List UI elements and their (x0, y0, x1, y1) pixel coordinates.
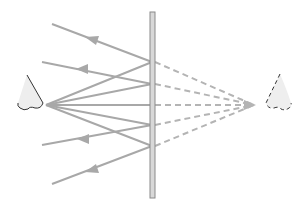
incident-ray-4 (46, 105, 152, 125)
reflected-ray-2 (42, 62, 152, 84)
virtual-ray-5 (155, 105, 254, 146)
virtual-ray-2 (155, 84, 254, 105)
plane-mirror (150, 12, 155, 198)
incident-ray-1 (46, 62, 152, 105)
virtual-ray-4 (155, 105, 254, 125)
virtual-convergence-arrow-icon (244, 100, 256, 110)
reflected-ray-4 (52, 146, 152, 184)
incident-ray-5 (46, 105, 152, 146)
real-eye-icon (18, 75, 43, 110)
reflected-ray-1 (52, 24, 152, 62)
virtual-eye-icon (266, 74, 291, 110)
arrowhead-icon (85, 36, 99, 45)
arrowhead-icon (76, 64, 88, 74)
arrowhead-icon (85, 164, 99, 173)
reflected-ray-3 (42, 125, 152, 145)
incident-rays (46, 62, 152, 146)
arrowhead-icon (77, 134, 89, 144)
mirror-reflection-diagram (0, 0, 304, 204)
virtual-rays (155, 62, 254, 146)
virtual-ray-1 (155, 62, 254, 105)
diagram-canvas (0, 0, 304, 204)
incident-ray-2 (46, 84, 152, 105)
